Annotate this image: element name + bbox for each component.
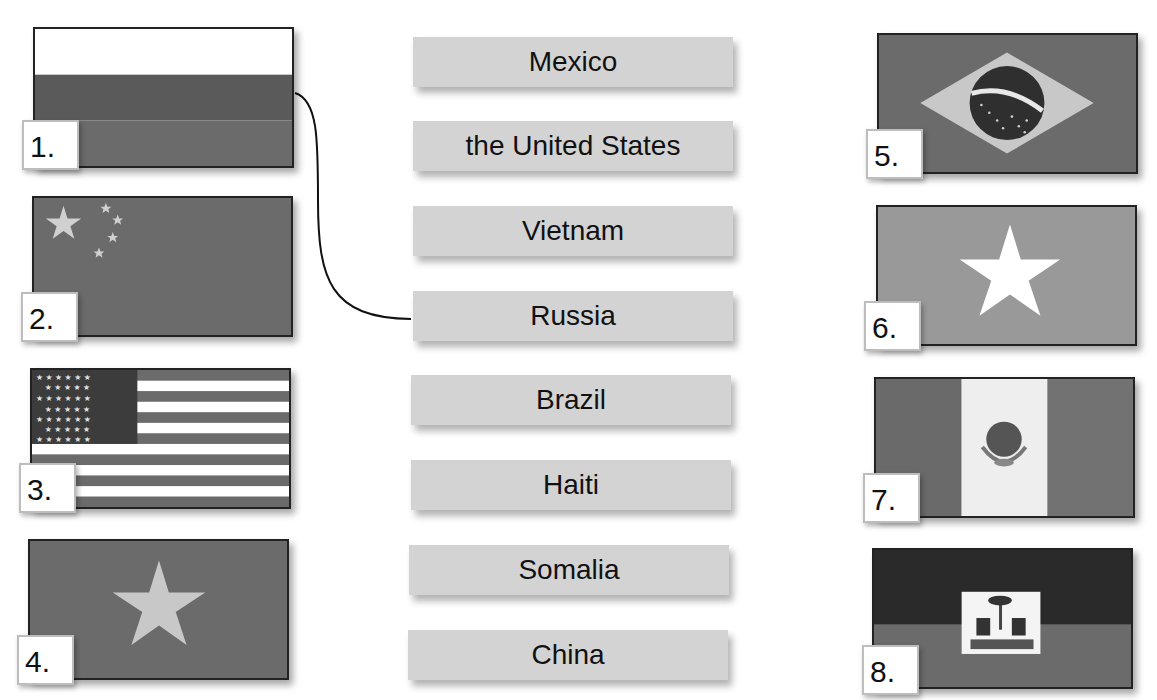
flag-number-1: 1.: [22, 120, 79, 170]
flag-number-2: 2.: [21, 292, 78, 342]
svg-text:★ ★ ★ ★ ★ ★: ★ ★ ★ ★ ★ ★: [36, 416, 91, 425]
country-label-mexico[interactable]: Mexico: [413, 37, 733, 87]
svg-text:★ ★ ★ ★ ★ ★: ★ ★ ★ ★ ★ ★: [36, 373, 91, 382]
country-label-china[interactable]: China: [408, 630, 728, 680]
svg-text:★ ★ ★ ★ ★ ★: ★ ★ ★ ★ ★ ★: [36, 394, 91, 403]
svg-text:★ ★ ★ ★ ★ ★: ★ ★ ★ ★ ★ ★: [36, 435, 91, 444]
flag-number-6: 6.: [864, 301, 921, 351]
flag-number-3: 3.: [19, 463, 76, 513]
flag-number-8: 8.: [862, 645, 919, 695]
flag-number-7: 7.: [863, 473, 920, 523]
country-label-brazil[interactable]: Brazil: [411, 375, 731, 425]
country-label-vietnam[interactable]: Vietnam: [413, 206, 733, 256]
country-label-somalia[interactable]: Somalia: [409, 545, 729, 595]
svg-text:★ ★ ★ ★ ★: ★ ★ ★ ★ ★: [45, 383, 90, 392]
svg-text:★ ★ ★ ★ ★: ★ ★ ★ ★ ★: [45, 405, 90, 414]
country-label-haiti[interactable]: Haiti: [411, 460, 731, 510]
country-label-russia[interactable]: Russia: [413, 291, 733, 341]
flag-number-4: 4.: [17, 635, 74, 685]
country-label-united-states[interactable]: the United States: [413, 121, 733, 171]
flag-number-5: 5.: [866, 129, 923, 179]
svg-text:★ ★ ★ ★ ★: ★ ★ ★ ★ ★: [45, 425, 90, 434]
